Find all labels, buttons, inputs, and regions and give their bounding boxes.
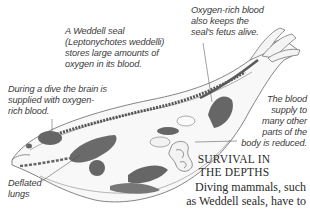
label-line: parts of the bbox=[225, 127, 307, 138]
book-page: A Weddell seal (Leptonychotes weddelli) … bbox=[0, 0, 310, 211]
eye bbox=[26, 144, 32, 149]
label-line: also keeps the bbox=[191, 16, 291, 27]
heart bbox=[89, 160, 105, 176]
heading-line: SURVIVAL IN bbox=[184, 153, 284, 166]
label-blood-supply: The blood supply to many other parts of … bbox=[225, 94, 307, 149]
label-line: supply to bbox=[225, 105, 307, 116]
label-line: lungs bbox=[8, 189, 68, 200]
label-line: many other bbox=[225, 116, 307, 127]
label-line: The blood bbox=[225, 94, 307, 105]
label-line: Deflated bbox=[8, 178, 68, 189]
label-line: A Weddell seal bbox=[65, 26, 165, 37]
heading-line: THE DEPTHS bbox=[184, 166, 284, 179]
label-line: rich blood. bbox=[8, 106, 138, 117]
label-line: stores large amounts of bbox=[65, 48, 165, 59]
body-line: as Weddell seals, have to bbox=[130, 194, 306, 208]
brain bbox=[38, 131, 62, 145]
section-heading: SURVIVAL IN THE DEPTHS bbox=[184, 153, 284, 178]
label-seal-intro: A Weddell seal (Leptonychotes weddelli) … bbox=[65, 26, 165, 70]
label-fetus: Oxygen-rich blood also keeps the seal's … bbox=[191, 5, 291, 38]
label-line: seal's fetus alive. bbox=[191, 27, 291, 38]
kidney bbox=[157, 127, 179, 135]
label-line: (Leptonychotes weddelli) bbox=[65, 37, 165, 48]
stomach bbox=[150, 137, 170, 147]
section-body-text: Diving mammals, such as Weddell seals, h… bbox=[130, 180, 306, 208]
label-line: Oxygen-rich blood bbox=[191, 5, 291, 16]
label-line: supplied with oxygen- bbox=[8, 95, 138, 106]
label-line: body is reduced. bbox=[225, 138, 307, 149]
organ-right bbox=[177, 116, 195, 126]
label-brain: During a dive the brain is supplied with… bbox=[8, 84, 138, 117]
body-line: Diving mammals, such bbox=[130, 180, 306, 194]
label-line: During a dive the brain is bbox=[8, 84, 138, 95]
label-lungs: Deflated lungs bbox=[8, 178, 68, 200]
label-line: oxygen in its blood. bbox=[65, 59, 165, 70]
